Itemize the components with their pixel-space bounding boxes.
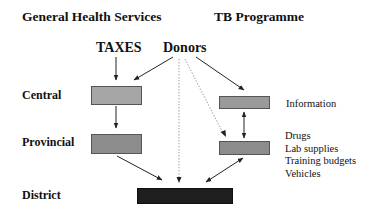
arrow-provincial-to-district [117, 156, 162, 180]
arrow-donors-to-ghs-central [134, 57, 173, 80]
arrow-tb-provincial-district-bidirectional [206, 158, 243, 182]
arrow-donors-to-tb-central [196, 57, 244, 90]
flow-arrows [0, 0, 373, 210]
arrow-donors-to-tb-provincial-dotted [185, 59, 224, 135]
